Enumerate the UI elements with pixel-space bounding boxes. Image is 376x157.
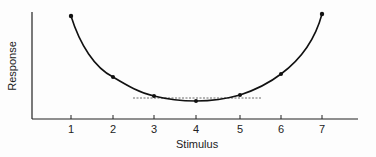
y-axis-label: Response [6, 41, 18, 91]
x-tick-label: 2 [110, 123, 116, 135]
x-tick-label: 3 [151, 123, 157, 135]
x-axis-label: Stimulus [176, 138, 218, 150]
x-tick-label: 1 [68, 123, 74, 135]
response-curve [71, 14, 322, 101]
data-points [69, 12, 324, 103]
x-tick-label: 7 [319, 123, 325, 135]
x-tick-label: 6 [278, 123, 284, 135]
x-tick-label: 5 [237, 123, 243, 135]
x-tick-label: 4 [193, 123, 199, 135]
chart: 1 2 3 4 5 6 7 Stimulus Response [0, 0, 376, 157]
